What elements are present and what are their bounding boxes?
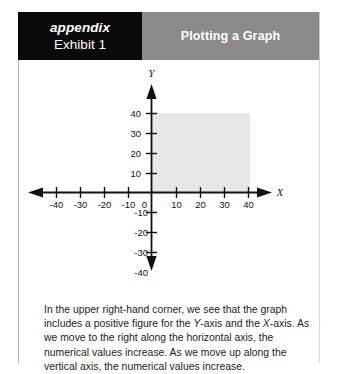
x-tick-label-neg30: -30 xyxy=(74,199,88,210)
y-axis-label: Y xyxy=(149,68,156,79)
caption-line-2-part-b: -axis and the xyxy=(200,318,263,329)
y-tick-label-40: 40 xyxy=(130,108,141,119)
x-tick-label-neg10: -10 xyxy=(122,199,136,210)
appendix-badge: appendix Exhibit 1 xyxy=(18,12,142,60)
caption-line-2-part-a: includes a positive figure for the xyxy=(44,318,193,329)
caption-x-axis-emphasis: X xyxy=(263,318,270,329)
exhibit-title-bar: Plotting a Graph xyxy=(142,12,320,60)
caption-line-5: numerical values increase. xyxy=(122,361,245,372)
caption-line-1: In the upper right-hand corner, we see t… xyxy=(44,304,287,315)
y-tick-label-10: 10 xyxy=(130,168,141,179)
x-axis-left-arrow xyxy=(28,187,43,197)
exhibit-label: Exhibit 1 xyxy=(54,36,106,54)
x-tick-label-20: 20 xyxy=(195,199,206,210)
x-axis-right-arrow xyxy=(257,187,272,197)
coordinate-graph: Y X 40 30 20 10 -10 -20 -30 -40 0 -40 -3… xyxy=(18,62,320,292)
appendix-word: appendix xyxy=(50,20,110,36)
y-tick-label-20: 20 xyxy=(130,148,141,159)
exhibit-header: appendix Exhibit 1 Plotting a Graph xyxy=(18,12,320,60)
exhibit-caption: In the upper right-hand corner, we see t… xyxy=(44,303,312,374)
y-axis-up-arrow xyxy=(146,84,156,99)
x-axis-label: X xyxy=(276,187,284,198)
y-tick-label-neg40: -40 xyxy=(134,267,148,278)
caption-line-2-part-c: -axis. As xyxy=(270,318,309,329)
y-tick-label-30: 30 xyxy=(130,128,141,139)
x-tick-label-neg20: -20 xyxy=(98,199,112,210)
coordinate-graph-svg: Y X 40 30 20 10 -10 -20 -30 -40 0 -40 -3… xyxy=(18,62,320,292)
x-tick-label-30: 30 xyxy=(219,199,230,210)
y-tick-label-neg30: -30 xyxy=(134,247,148,258)
y-tick-label-neg20: -20 xyxy=(134,227,148,238)
origin-label: 0 xyxy=(142,199,147,210)
x-tick-label-neg40: -40 xyxy=(50,199,64,210)
x-tick-label-40: 40 xyxy=(243,199,254,210)
first-quadrant-shading xyxy=(152,113,250,193)
page-title: Plotting a Graph xyxy=(181,29,281,43)
x-tick-label-10: 10 xyxy=(171,199,182,210)
